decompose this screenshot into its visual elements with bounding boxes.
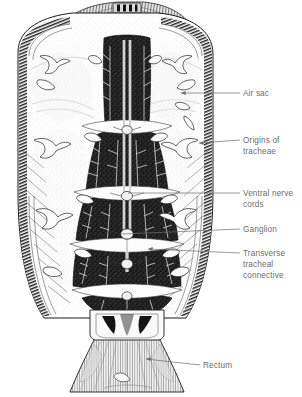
label-rectum: Rectum bbox=[203, 361, 232, 370]
label-air-sac: Air sac bbox=[243, 89, 269, 98]
label-line: Ganglion bbox=[243, 225, 277, 234]
anatomical-figure: Air sacOrigins oftracheaeVentral nerveco… bbox=[0, 0, 302, 397]
label-ganglion: Ganglion bbox=[243, 225, 277, 234]
posterior-segment bbox=[90, 310, 164, 343]
label-line: cords bbox=[243, 200, 264, 209]
label-line: Rectum bbox=[203, 361, 232, 370]
anterior-notch bbox=[113, 3, 141, 13]
label-line: tracheae bbox=[243, 147, 276, 156]
abdomen-dissection-illustration: Air sacOrigins oftracheaeVentral nerveco… bbox=[0, 0, 302, 397]
label-line: connective bbox=[243, 271, 284, 280]
label-line: Transverse bbox=[243, 249, 285, 258]
label-line: Ventral nerve bbox=[243, 189, 293, 198]
label-line: tracheal bbox=[243, 260, 273, 269]
label-line: Origins of bbox=[243, 136, 280, 145]
label-line: Air sac bbox=[243, 89, 269, 98]
